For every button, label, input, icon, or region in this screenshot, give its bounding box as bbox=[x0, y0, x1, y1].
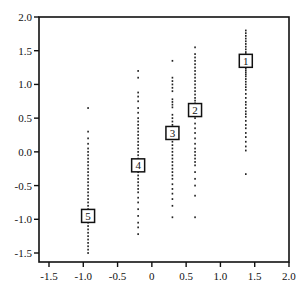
data-point bbox=[245, 120, 247, 122]
data-point bbox=[245, 141, 247, 143]
marker-label: 5 bbox=[85, 210, 91, 222]
data-point bbox=[194, 57, 196, 59]
marker-4: 4 bbox=[132, 159, 145, 172]
y-tick-label: 0.0 bbox=[18, 146, 32, 158]
marker-1: 1 bbox=[239, 54, 252, 67]
x-tick-label: 2.0 bbox=[282, 270, 296, 282]
x-tick-label: -1.0 bbox=[75, 270, 93, 282]
data-point bbox=[245, 104, 247, 106]
data-point bbox=[137, 137, 139, 139]
data-point bbox=[87, 225, 89, 227]
data-point bbox=[137, 117, 139, 119]
data-point bbox=[172, 80, 174, 82]
data-point bbox=[87, 164, 89, 166]
data-point bbox=[194, 73, 196, 75]
data-point bbox=[245, 32, 247, 34]
data-point bbox=[172, 178, 174, 180]
data-point bbox=[245, 86, 247, 88]
data-point bbox=[245, 38, 247, 40]
data-point bbox=[172, 188, 174, 190]
data-point bbox=[245, 40, 247, 42]
marker-3: 3 bbox=[166, 126, 179, 139]
data-point bbox=[87, 161, 89, 163]
data-point bbox=[87, 229, 89, 231]
data-point bbox=[194, 195, 196, 197]
data-point bbox=[172, 158, 174, 160]
data-point bbox=[245, 71, 247, 73]
data-point bbox=[172, 84, 174, 86]
data-point bbox=[194, 185, 196, 187]
data-point bbox=[172, 98, 174, 100]
marker-label: 3 bbox=[170, 127, 176, 139]
x-tick-label: 0.5 bbox=[179, 270, 193, 282]
data-point bbox=[245, 150, 247, 152]
data-point bbox=[194, 123, 196, 125]
data-point bbox=[87, 239, 89, 241]
data-point bbox=[137, 131, 139, 133]
data-point bbox=[87, 168, 89, 170]
data-point bbox=[172, 205, 174, 207]
data-point bbox=[87, 185, 89, 187]
data-point bbox=[172, 151, 174, 153]
y-axis: -1.5-1.0-0.50.00.51.01.52.0 bbox=[15, 11, 39, 259]
data-point bbox=[137, 222, 139, 224]
data-point bbox=[87, 188, 89, 190]
data-point bbox=[245, 146, 247, 148]
data-point bbox=[137, 233, 139, 235]
data-point bbox=[137, 100, 139, 102]
x-tick-label: 1.0 bbox=[214, 270, 228, 282]
y-tick-label: 1.0 bbox=[18, 78, 32, 90]
data-point bbox=[137, 92, 139, 94]
y-tick-label: 2.0 bbox=[18, 11, 32, 23]
x-tick-label: 1.5 bbox=[248, 270, 262, 282]
data-point bbox=[137, 181, 139, 183]
data-point bbox=[194, 70, 196, 72]
data-point bbox=[194, 100, 196, 102]
data-point bbox=[172, 154, 174, 156]
data-point bbox=[245, 173, 247, 175]
data-point bbox=[172, 198, 174, 200]
data-point bbox=[172, 144, 174, 146]
data-point bbox=[194, 67, 196, 69]
data-point bbox=[172, 183, 174, 185]
data-point bbox=[172, 148, 174, 150]
data-point bbox=[245, 46, 247, 48]
data-point bbox=[245, 127, 247, 129]
data-point bbox=[87, 198, 89, 200]
x-tick-label: -0.5 bbox=[109, 270, 127, 282]
data-point bbox=[172, 141, 174, 143]
marker-2: 2 bbox=[189, 104, 202, 117]
data-point bbox=[245, 101, 247, 103]
data-point bbox=[172, 106, 174, 108]
x-tick-label: -1.5 bbox=[40, 270, 58, 282]
data-point bbox=[245, 48, 247, 50]
data-point bbox=[87, 191, 89, 193]
data-point bbox=[194, 53, 196, 55]
y-tick-label: 1.5 bbox=[18, 45, 32, 57]
data-point bbox=[172, 117, 174, 119]
data-point bbox=[87, 181, 89, 183]
data-point bbox=[172, 216, 174, 218]
data-point bbox=[137, 134, 139, 136]
data-point bbox=[194, 137, 196, 139]
data-point bbox=[172, 168, 174, 170]
data-point bbox=[245, 113, 247, 115]
data-point bbox=[172, 60, 174, 62]
data-point bbox=[194, 132, 196, 134]
data-point bbox=[137, 202, 139, 204]
data-point bbox=[137, 148, 139, 150]
data-point bbox=[245, 30, 247, 32]
data-point bbox=[245, 107, 247, 109]
data-point bbox=[194, 90, 196, 92]
data-point bbox=[245, 132, 247, 134]
data-point bbox=[137, 144, 139, 146]
data-point bbox=[137, 121, 139, 123]
data-point bbox=[194, 94, 196, 96]
y-tick-label: 0.5 bbox=[18, 112, 32, 124]
data-point bbox=[137, 141, 139, 143]
data-point bbox=[87, 148, 89, 150]
scatter-chart: -1.5-1.0-0.500.51.01.52.0 -1.5-1.0-0.50.… bbox=[0, 0, 303, 293]
data-point bbox=[245, 81, 247, 83]
data-point bbox=[245, 69, 247, 71]
data-point bbox=[194, 117, 196, 119]
